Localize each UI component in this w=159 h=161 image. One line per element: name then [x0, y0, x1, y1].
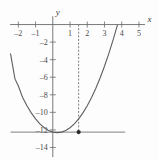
x-axis-label: x [147, 14, 152, 24]
parabola-curve [11, 25, 118, 133]
y-axis-tick-label: –4 [39, 56, 48, 65]
y-axis-tick-label: –12 [35, 126, 48, 135]
y-axis-tick-label: –8 [39, 91, 48, 100]
x-axis-tick-label: 4 [120, 29, 124, 38]
plot-canvas: –2–112345 –2–4–6–8–10–12–14 x y [0, 0, 159, 161]
y-axis-tick-label: –10 [35, 108, 48, 117]
x-axis-tick-label: 2 [85, 29, 89, 38]
vertex-point-marker [77, 130, 81, 134]
y-axis-label: y [55, 7, 60, 17]
x-axis-tick-label: –2 [13, 29, 22, 38]
x-axis-tick-label: –1 [31, 29, 40, 38]
y-axis-tick-label: –6 [39, 73, 48, 82]
parabola-figure: –2–112345 –2–4–6–8–10–12–14 x y [0, 0, 159, 161]
axes-group [10, 16, 145, 157]
x-axis-tick-label: 3 [102, 29, 106, 38]
x-axis-tick-label: 1 [68, 29, 72, 38]
y-axis-tick-label: –14 [35, 143, 48, 152]
y-axis-tick-label: –2 [39, 38, 48, 47]
x-axis-tick-labels: –2–112345 [13, 29, 141, 38]
y-axis-tick-labels: –2–4–6–8–10–12–14 [35, 38, 48, 152]
x-axis-tick-label: 5 [137, 29, 141, 38]
